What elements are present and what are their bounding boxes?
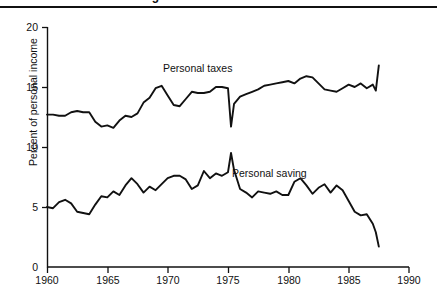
y-tick-marks xyxy=(42,28,48,208)
chart-svg xyxy=(0,0,437,291)
annotation-personal-taxes: Personal taxes xyxy=(163,62,232,74)
x-tick-label-1960: 1960 xyxy=(25,274,69,286)
plot-area: Percent of personal income 0 5 10 15 20 … xyxy=(0,0,437,291)
x-tick-label-1980: 1980 xyxy=(267,274,311,286)
y-axis-label: Percent of personal income xyxy=(27,22,39,182)
y-tick-label-20: 20 xyxy=(12,21,38,33)
x-tick-label-1970: 1970 xyxy=(146,274,190,286)
x-tick-label-1985: 1985 xyxy=(327,274,371,286)
line-series-personal-saving xyxy=(47,153,379,247)
chart-figure: Personal taxes and savings xyxy=(0,0,437,291)
x-tick-label-1965: 1965 xyxy=(86,274,130,286)
x-tick-label-1990: 1990 xyxy=(387,274,431,286)
y-tick-label-5: 5 xyxy=(12,201,38,213)
x-tick-label-1975: 1975 xyxy=(206,274,250,286)
x-tick-marks xyxy=(48,267,410,273)
y-tick-label-0: 0 xyxy=(12,261,38,273)
y-tick-label-15: 15 xyxy=(12,81,38,93)
annotation-personal-saving: Personal saving xyxy=(232,167,307,179)
line-series-personal-taxes xyxy=(47,65,379,127)
y-tick-label-10: 10 xyxy=(12,141,38,153)
